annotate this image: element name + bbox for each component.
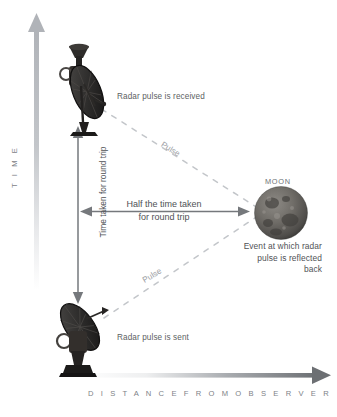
- event-label-received: Radar pulse is received: [117, 91, 205, 102]
- distance-axis-arrow: [80, 367, 331, 384]
- satellite-dish-top-icon: [60, 44, 110, 136]
- moon-icon: [255, 187, 308, 240]
- half-trip-measure-label: Half the time taken for round trip: [80, 198, 248, 223]
- round-trip-measure-label: Time taken for round trip: [98, 132, 112, 252]
- satellite-dish-bottom-icon: [53, 297, 109, 377]
- time-axis-title: T I M E: [10, 118, 28, 188]
- moon-label: MOON: [265, 176, 291, 187]
- distance-axis-title: D I S T A N C E F R O M O B S E R V E R: [88, 389, 331, 398]
- reflection-event-label: Event at which radar pulse is reflected …: [222, 241, 322, 276]
- pulse-path-returning: [103, 110, 258, 208]
- spacetime-diagram: T I M E D I S T A N C E F R O M O B S E …: [0, 0, 337, 417]
- time-axis-arrow: [28, 13, 45, 290]
- event-label-sent: Radar pulse is sent: [117, 332, 189, 343]
